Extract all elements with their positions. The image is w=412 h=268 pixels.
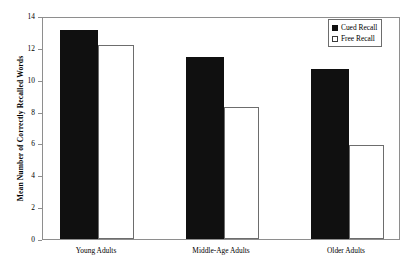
y-axis-tick: 14 xyxy=(0,17,42,18)
x-axis-group-label-1: Middle-Age Adults xyxy=(161,246,281,255)
x-axis-group-label-0: Young Adults xyxy=(36,246,156,255)
y-axis-title: Mean Number of Correctly Recalled Words xyxy=(14,17,28,240)
y-axis-tick: 2 xyxy=(0,208,42,209)
legend-item-0: Cued Recall xyxy=(332,22,377,33)
open-square-icon xyxy=(332,36,338,42)
y-axis-tick: 10 xyxy=(0,81,42,82)
y-axis-tick-label: 14 xyxy=(28,11,35,22)
bar-free-2 xyxy=(349,145,384,239)
y-axis-tick-label: 4 xyxy=(31,170,35,181)
bar-free-0 xyxy=(98,45,134,239)
legend-item-1: Free Recall xyxy=(332,33,377,44)
legend-item-label: Cued Recall xyxy=(341,22,377,33)
bar-chart: Mean Number of Correctly Recalled Words … xyxy=(0,0,412,268)
y-axis-tick: 12 xyxy=(0,49,42,50)
y-axis-tick-label: 0 xyxy=(31,234,35,245)
y-axis-tick: 6 xyxy=(0,144,42,145)
y-axis-tick-label: 2 xyxy=(31,202,35,213)
legend-item-label: Free Recall xyxy=(341,33,375,44)
bar-cued-0 xyxy=(60,30,98,239)
y-axis-tick: 8 xyxy=(0,113,42,114)
legend: Cued RecallFree Recall xyxy=(328,19,382,47)
bar-free-1 xyxy=(224,107,259,239)
y-axis-tick-label: 6 xyxy=(31,138,35,149)
y-axis-tick: 4 xyxy=(0,176,42,177)
y-axis-tick-label: 8 xyxy=(31,107,35,118)
y-axis-tick-label: 12 xyxy=(28,43,35,54)
filled-square-icon xyxy=(332,25,338,31)
y-axis-tick-label: 10 xyxy=(28,75,35,86)
plot-area: Cued RecallFree Recall xyxy=(42,17,400,240)
bar-cued-1 xyxy=(186,57,224,239)
bar-cued-2 xyxy=(311,69,349,239)
tick-mark xyxy=(38,240,42,241)
x-axis-group-label-2: Older Adults xyxy=(286,246,406,255)
y-axis-tick: 0 xyxy=(0,240,42,241)
